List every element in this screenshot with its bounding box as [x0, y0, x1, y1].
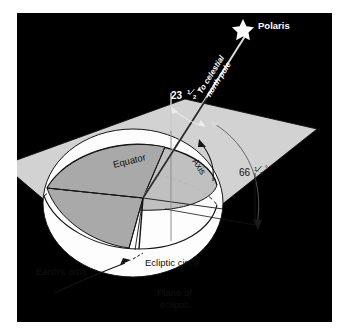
plane-of-ecliptic-label-line1: Plane of: [157, 287, 192, 298]
diagram-panel: Polaris To celestial north pole 23 1 2 °…: [17, 13, 332, 322]
star-icon: [232, 19, 254, 40]
figure-root: Polaris To celestial north pole 23 1 2 °…: [0, 0, 342, 333]
tilt-angle-number: 23: [171, 90, 183, 101]
polaris-label: Polaris: [258, 20, 290, 31]
tilt-angle-degree-symbol: °: [198, 88, 201, 95]
ecliptic-circle-label: Ecliptic circle: [145, 257, 200, 268]
complement-angle-degree-symbol: °: [265, 165, 268, 172]
ecliptic-tilt-diagram: Polaris To celestial north pole 23 1 2 °…: [17, 13, 332, 322]
complement-angle-number: 66: [239, 167, 251, 178]
plane-of-ecliptic-label-line2: ecliptic: [160, 299, 189, 310]
tilt-angle-fraction-denominator: 2: [193, 94, 197, 100]
earths-orbit-label: Earth's orbit: [36, 266, 87, 277]
